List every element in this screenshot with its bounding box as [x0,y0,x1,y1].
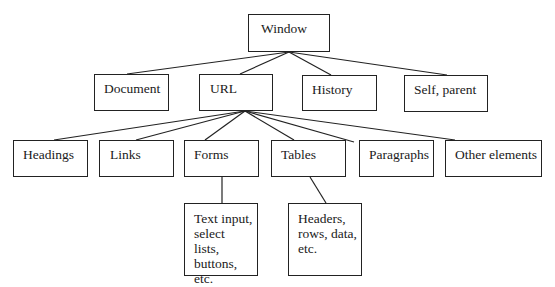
node-document: Document [94,74,169,111]
node-headings: Headings [13,140,88,177]
node-tables-label: Tables [281,147,316,162]
node-forms-detail-label: Text input, select lists, buttons, etc. [194,211,252,286]
node-window: Window [248,14,330,52]
node-links: Links [99,140,174,177]
edge-url-tables [245,111,294,140]
edge-url-other-elements [245,111,455,140]
node-url: URL [199,74,273,111]
edge-url-paragraphs [245,111,354,142]
node-window-label: Window [261,21,307,36]
node-other-elements-label: Other elements [455,147,537,162]
node-url-label: URL [210,81,237,96]
node-history: History [302,75,377,111]
node-self-parent: Self, parent [404,75,488,112]
node-paragraphs-label: Paragraphs [369,147,429,162]
node-headings-label: Headings [23,147,74,162]
edge-window-self-parent [289,52,447,75]
node-paragraphs: Paragraphs [359,140,434,177]
node-forms-detail: Text input, select lists, buttons, etc. [184,203,258,276]
node-tables-detail-label: Headers, rows, data, etc. [298,211,357,256]
node-history-label: History [312,82,353,97]
node-tables: Tables [271,140,346,177]
node-self-parent-label: Self, parent [414,82,476,97]
node-document-label: Document [104,81,160,96]
edge-url-headings [54,111,245,140]
node-tables-detail: Headers, rows, data, etc. [288,203,362,276]
edge-url-forms [205,111,245,140]
node-links-label: Links [110,147,141,162]
edge-tables-detail [310,177,326,203]
node-forms-label: Forms [194,147,229,162]
node-forms: Forms [184,140,259,177]
node-other-elements: Other elements [445,140,542,177]
